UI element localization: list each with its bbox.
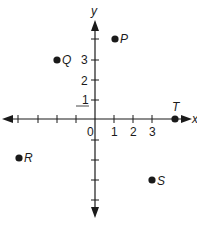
y-tick-label-1: 1 (82, 93, 89, 107)
point-P-label: P (120, 32, 128, 46)
point-P: P (111, 32, 128, 46)
point-R: R (15, 151, 33, 165)
point-Q: Q (53, 53, 71, 67)
point-S-label: S (157, 174, 165, 188)
y-axis-up-arrow-icon (91, 20, 99, 31)
x-axis-left-arrow-icon (2, 115, 13, 123)
point-S-marker (148, 176, 155, 183)
point-S: S (148, 174, 165, 188)
point-T-marker (171, 115, 178, 122)
y-tick-label-2: 2 (81, 74, 88, 88)
x-tick-label-2: 2 (130, 125, 137, 139)
y-axis-label: y (90, 4, 98, 18)
x-axis-right-arrow-icon (181, 115, 192, 123)
point-R-label: R (24, 151, 33, 165)
y-tick-label-3: 3 (81, 53, 88, 67)
y-axis-down-arrow-icon (91, 207, 99, 218)
origin-label: 0 (87, 125, 94, 139)
point-Q-marker (53, 56, 60, 63)
point-T-label: T (172, 100, 181, 114)
coordinate-plane: y x 0 1 2 3 1 2 3 P Q R S T (0, 0, 197, 225)
point-P-marker (111, 35, 118, 42)
point-R-marker (15, 154, 22, 161)
x-axis-label: x (191, 112, 197, 126)
x-tick-label-3: 3 (149, 125, 156, 139)
x-tick-label-1: 1 (111, 125, 118, 139)
point-Q-label: Q (62, 53, 71, 67)
